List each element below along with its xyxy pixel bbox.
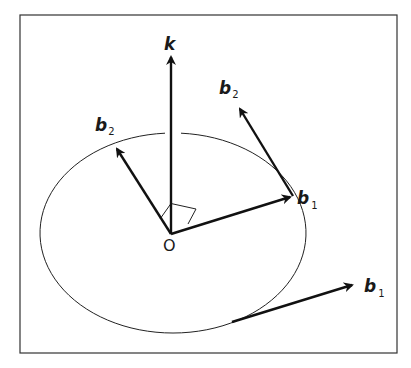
b2-inner-label: b2 [95, 115, 115, 137]
b2-tangent-label: b2 [219, 78, 239, 100]
b1-lower-vector [232, 285, 352, 322]
b1-inner-vector [171, 197, 290, 234]
origin-label: O [163, 236, 176, 255]
b2-inner-vector [117, 149, 171, 234]
vector-diagram: O k b2 b1 b2 b1 [0, 0, 411, 368]
k-label: k [164, 34, 177, 54]
b1-lower-label: b1 [364, 276, 385, 299]
right-angle-marker [160, 204, 196, 225]
b2-tangent-vector [240, 109, 293, 196]
b1-inner-label: b1 [297, 188, 318, 211]
